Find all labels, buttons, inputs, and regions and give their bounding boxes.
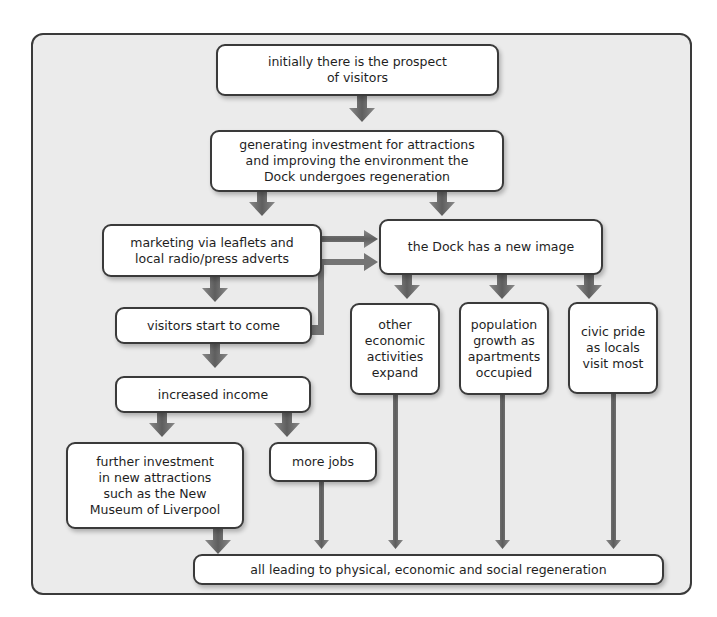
- arrow-n3-n4: [320, 230, 378, 248]
- arrow-n2-n4: [429, 190, 455, 216]
- node-marketing: marketing via leaflets and local radio/p…: [102, 224, 322, 277]
- arrow-n5-n9: [202, 342, 228, 368]
- node-more-jobs: more jobs: [269, 442, 377, 482]
- node-economic-activities: other economic activities expand: [350, 303, 440, 395]
- node-further-investment: further investment in new attractions su…: [66, 442, 244, 529]
- arrow-n3-n5: [202, 276, 228, 302]
- arrow-n2-n3: [249, 190, 275, 216]
- arrow-n8-n12: [606, 393, 621, 549]
- node-visitors-start: visitors start to come: [115, 307, 312, 344]
- arrow-n9-n10: [149, 411, 175, 437]
- node-increased-income: increased income: [115, 376, 311, 413]
- node-regeneration: all leading to physical, economic and so…: [193, 554, 664, 585]
- node-civic-pride: civic pride as locals visit most: [568, 302, 658, 394]
- arrow-n7-n12: [495, 393, 510, 549]
- arrow-n6-n12: [388, 393, 403, 549]
- arrow-n4-n6: [394, 273, 420, 299]
- node-prospect-of-visitors: initially there is the prospect of visit…: [216, 44, 499, 96]
- arrow-n10-n12: [205, 528, 231, 554]
- arrow-n4-n7: [489, 273, 515, 299]
- arrow-n11-n12: [314, 480, 329, 549]
- arrow-n1-n2: [349, 94, 375, 122]
- arrow-n4-n8: [576, 273, 602, 299]
- arrow-n9-n11: [274, 411, 300, 437]
- node-dock-new-image: the Dock has a new image: [379, 219, 603, 275]
- node-population-growth: population growth as apartments occupied: [459, 302, 549, 395]
- node-generating-investment: generating investment for attractions an…: [210, 130, 504, 192]
